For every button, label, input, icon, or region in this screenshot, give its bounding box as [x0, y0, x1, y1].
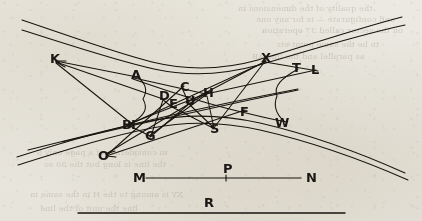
point-label-c-2: C	[180, 79, 190, 94]
point-label-r-20: R	[204, 195, 214, 210]
point-label-o-16: O	[98, 148, 109, 163]
ray-k-to-a	[56, 61, 137, 77]
point-label-u-5: U	[185, 93, 196, 108]
line-x-down-left	[186, 61, 266, 103]
point-label-s-15: S	[210, 121, 219, 136]
point-label-f-10: F	[240, 104, 249, 119]
point-label-w-11: W	[275, 115, 289, 130]
point-label-h-6: H	[203, 85, 214, 100]
point-label-g-14: G	[145, 128, 156, 143]
ray-k-to-bi	[56, 63, 132, 124]
point-label-k-0: K	[50, 51, 61, 66]
geometry-figure: KACDEUHXTLFWBIGSOMPNR	[0, 0, 422, 221]
upper-conic-curve-outer	[22, 17, 402, 68]
point-label-a-1: A	[131, 67, 141, 82]
point-label-i-13: I	[131, 117, 136, 132]
line-lowerleft-secondary	[62, 90, 298, 142]
diagram-page: the quality of the dimensions inand conf…	[0, 0, 422, 221]
point-label-t-8: T	[292, 60, 301, 75]
point-label-p-18: P	[223, 161, 233, 176]
point-label-x-7: X	[261, 50, 271, 65]
point-label-m-17: M	[133, 170, 146, 185]
point-label-n-19: N	[306, 170, 317, 185]
point-label-e-4: E	[169, 96, 178, 111]
point-label-l-9: L	[311, 62, 319, 77]
